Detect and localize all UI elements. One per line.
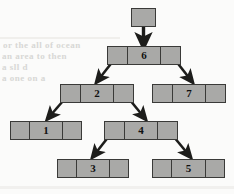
node-2-left-pointer-cell: [61, 85, 80, 102]
node-3-right-pointer-cell: [110, 160, 128, 177]
node-2-value: 2: [80, 85, 115, 102]
ghost-text-line-2: an area to then: [2, 51, 67, 61]
node-7-value: 7: [172, 85, 207, 102]
ghost-text-line-4: a one on a: [2, 73, 46, 83]
node-1-left-pointer-cell: [11, 122, 29, 139]
node-3-left-pointer-cell: [58, 160, 76, 177]
root-pointer-box: [131, 8, 156, 27]
ghost-text-line-1: or the all of ocean: [3, 40, 81, 50]
tree-node-2: 2: [60, 84, 134, 103]
ghost-text-line-3: a sll d: [2, 62, 28, 72]
node-4-right-pointer-cell: [158, 122, 177, 139]
node-7-right-pointer-cell: [206, 85, 225, 102]
node-4-value: 4: [124, 122, 159, 139]
node-5-right-pointer-cell: [206, 160, 224, 177]
node-2-right-pointer-cell: [114, 85, 133, 102]
node-3-value: 3: [76, 160, 110, 177]
node-6-value: 6: [127, 47, 162, 64]
figure-canvas: or the all of ocean an area to then a sl…: [0, 0, 234, 194]
node-4-left-pointer-cell: [105, 122, 124, 139]
tree-node-4: 4: [104, 121, 178, 140]
node-1-right-pointer-cell: [63, 122, 81, 139]
node-5-left-pointer-cell: [153, 160, 171, 177]
node-6-right-pointer-cell: [161, 47, 180, 64]
tree-node-6: 6: [107, 46, 181, 65]
scan-artifact-band-top: [0, 37, 120, 39]
tree-node-1: 1: [10, 121, 82, 140]
node-5-value: 5: [171, 160, 205, 177]
tree-node-7: 7: [152, 84, 226, 103]
tree-node-3: 3: [57, 159, 129, 178]
scan-artifact-band-bottom: [0, 186, 234, 189]
node-7-left-pointer-cell: [153, 85, 172, 102]
tree-node-5: 5: [152, 159, 225, 178]
node-1-value: 1: [29, 122, 63, 139]
node-6-left-pointer-cell: [108, 47, 127, 64]
